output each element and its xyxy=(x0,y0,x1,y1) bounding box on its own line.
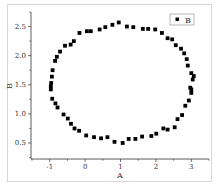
data-point-square xyxy=(141,27,145,31)
data-point-square xyxy=(192,74,196,78)
data-point-square xyxy=(160,31,164,35)
data-point-square xyxy=(131,25,135,29)
data-point-square xyxy=(72,39,76,43)
data-point-square xyxy=(89,29,93,33)
data-point-square xyxy=(98,28,102,32)
data-point-square xyxy=(103,25,107,29)
data-point-square xyxy=(49,88,53,92)
data-point-square xyxy=(53,59,57,63)
data-point-square xyxy=(66,117,70,121)
x-tick-label: 3 xyxy=(189,163,193,171)
data-point-square xyxy=(49,81,53,85)
data-point-square xyxy=(189,91,193,95)
data-point-square xyxy=(146,27,150,31)
data-point-square xyxy=(176,117,180,121)
data-point-square xyxy=(121,141,125,145)
data-point-square xyxy=(173,125,177,129)
x-axis-title: A xyxy=(116,171,123,180)
x-tick-label: -1 xyxy=(46,163,53,171)
y-tick-label: 2.5 xyxy=(15,23,26,31)
data-point-square xyxy=(188,86,192,90)
data-point-square xyxy=(51,68,55,72)
y-tick-label: 1.0 xyxy=(15,110,26,118)
data-point-square xyxy=(106,135,110,139)
data-point-square xyxy=(179,47,183,51)
data-point-square xyxy=(110,23,114,27)
data-point-square xyxy=(58,50,62,54)
data-point-square xyxy=(50,75,54,79)
data-point-square xyxy=(191,78,195,82)
data-point-square xyxy=(77,129,81,133)
data-point-square xyxy=(84,134,88,138)
data-point-square xyxy=(174,43,178,47)
data-point-square xyxy=(99,136,103,140)
data-point-square xyxy=(166,36,170,40)
data-point-square xyxy=(183,104,187,108)
data-point-square xyxy=(180,113,184,117)
y-axis-title: B xyxy=(5,83,14,89)
y-tick-label: 1.5 xyxy=(15,81,26,89)
legend-marker-square-icon xyxy=(176,18,180,22)
data-point-square xyxy=(127,137,131,141)
data-point-square xyxy=(154,132,158,136)
data-point-square xyxy=(117,21,121,25)
legend-label: B xyxy=(185,16,191,25)
data-point-square xyxy=(185,57,189,61)
y-tick-label: 2.0 xyxy=(15,52,26,60)
data-point-square xyxy=(50,97,54,101)
legend: B xyxy=(170,14,194,25)
data-point-square xyxy=(125,25,129,29)
data-point-square xyxy=(85,29,89,33)
data-point-square xyxy=(78,31,82,35)
data-point-square xyxy=(69,122,73,126)
data-point-square xyxy=(153,28,157,32)
x-tick-label: 1 xyxy=(118,163,122,171)
data-point-square xyxy=(113,140,117,144)
data-points xyxy=(49,21,196,145)
data-point-square xyxy=(69,43,73,47)
data-point-square xyxy=(182,51,186,55)
data-point-square xyxy=(187,99,191,103)
axes: -101230.51.01.52.02.5 xyxy=(15,12,209,171)
data-point-square xyxy=(92,135,96,139)
x-tick-label: 2 xyxy=(154,163,158,171)
y-tick-label: 0.5 xyxy=(15,139,26,147)
data-point-square xyxy=(62,113,66,117)
data-point-square xyxy=(186,64,190,68)
data-point-square xyxy=(161,127,165,131)
data-point-square xyxy=(56,106,60,110)
data-point-square xyxy=(63,44,67,48)
scatter-chart: -101230.51.01.52.02.5 B A B xyxy=(0,0,217,192)
data-point-square xyxy=(170,37,174,41)
data-point-square xyxy=(133,137,137,141)
data-point-square xyxy=(73,127,77,131)
data-point-square xyxy=(140,135,144,139)
data-point-square xyxy=(55,55,59,59)
data-point-square xyxy=(54,102,58,106)
data-point-square xyxy=(166,128,170,132)
x-tick-label: 0 xyxy=(83,163,87,171)
data-point-square xyxy=(149,134,153,138)
